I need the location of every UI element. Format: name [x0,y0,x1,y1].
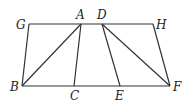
point-label-E: E [114,89,124,103]
point-label-G: G [16,18,26,32]
point-label-F: F [172,80,182,94]
segment-AC [74,24,81,86]
point-label-B: B [9,80,19,94]
geometry-diagram: GADHBCEF [0,0,187,107]
segment-AB [22,24,81,86]
point-label-A: A [75,8,85,22]
point-labels: GADHBCEF [9,8,182,103]
point-label-H: H [155,18,167,32]
segments [22,24,170,86]
point-label-D: D [96,8,107,22]
segment-HF [153,24,170,86]
point-label-C: C [70,89,79,103]
segment-DE [102,24,120,86]
segment-DF [102,24,170,86]
segment-GB [22,24,29,86]
